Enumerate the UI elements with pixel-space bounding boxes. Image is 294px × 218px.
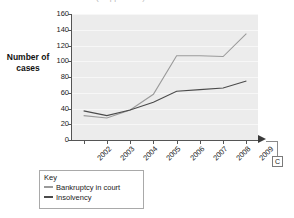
x-tick-label: 2006 <box>189 145 206 162</box>
y-tick-mark <box>68 140 71 141</box>
x-tick-mark <box>246 141 247 144</box>
x-tick-mark <box>84 141 85 144</box>
x-tick-label: 2002 <box>96 145 113 162</box>
y-tick-mark <box>68 61 71 62</box>
x-tick-label: 2007 <box>212 145 229 162</box>
legend-items: Bankruptcy in courtInsolvency <box>44 182 143 202</box>
y-tick-mark <box>68 109 71 110</box>
y-tick-mark <box>68 30 71 31</box>
legend-key-box: Key Bankruptcy in courtInsolvency <box>39 170 144 209</box>
x-tick-label: 2004 <box>142 145 159 162</box>
x-tick-mark <box>200 141 201 144</box>
x-tick-mark <box>107 141 108 144</box>
y-tick-mark <box>68 124 71 125</box>
x-tick-label: 2005 <box>165 145 182 162</box>
y-tick-mark <box>68 77 71 78</box>
x-tick-mark <box>177 141 178 144</box>
legend-item-label: Bankruptcy in court <box>56 183 120 192</box>
legend-item: Insolvency <box>44 192 143 202</box>
y-tick-mark <box>68 93 71 94</box>
legend-title: Key <box>44 173 143 182</box>
x-tick-label: 2003 <box>119 145 136 162</box>
legend-color-swatch <box>44 196 53 197</box>
x-tick-mark <box>153 141 154 144</box>
legend-item: Bankruptcy in court <box>44 182 143 192</box>
x-tick-mark <box>130 141 131 144</box>
x-tick-mark <box>223 141 224 144</box>
legend-item-label: Insolvency <box>56 193 91 202</box>
callout-marker-c: C <box>272 156 283 167</box>
callout-leader-line-horizontal <box>266 141 278 142</box>
callout-leader-line-vertical <box>277 141 278 157</box>
x-tick-label: 2008 <box>235 145 252 162</box>
y-tick-mark <box>68 14 71 15</box>
y-tick-mark <box>68 46 71 47</box>
chart-page: (cropped title) Number of cases 16014012… <box>0 0 294 218</box>
legend-color-swatch <box>44 186 53 187</box>
